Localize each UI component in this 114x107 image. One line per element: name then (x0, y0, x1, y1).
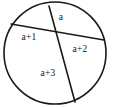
region-label-right: a+2 (73, 45, 88, 55)
region-label-top: a (59, 13, 63, 23)
circle-outline (4, 2, 106, 104)
region-label-bottom: a+3 (41, 69, 56, 79)
region-label-left: a+1 (22, 33, 37, 43)
circle-chord-figure: a a+1 a+2 a+3 (0, 0, 114, 107)
figure-canvas (0, 0, 114, 107)
